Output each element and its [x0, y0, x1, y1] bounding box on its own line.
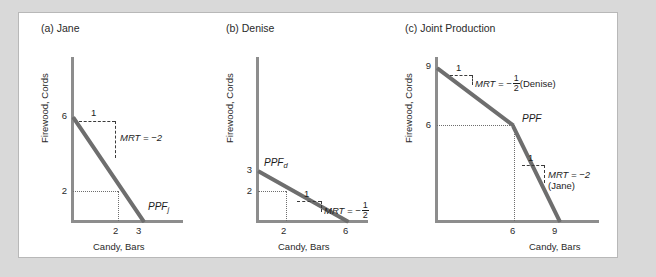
panel-b-slope-rise	[321, 201, 322, 212]
panel-c-mrt-denise-prefix: MRT = −	[475, 78, 512, 89]
panel-b-ppf-label: PPFd	[264, 157, 288, 170]
panel-c-dotted-horizontal	[437, 125, 514, 126]
panel-a-ppf-label-subscript: j	[167, 205, 169, 214]
panel-a-ytick-6: 6	[53, 110, 67, 121]
panel-c-ytick-9: 9	[417, 60, 431, 71]
panel-a-y-axis	[71, 57, 74, 222]
panel-b-slope-run	[297, 201, 321, 202]
panel-c-jane-slope-rise	[544, 165, 545, 183]
panel-a-dotted-horizontal	[73, 191, 118, 192]
panel-c-x-axis	[435, 220, 599, 223]
panel-b-ppf-label-subscript: d	[283, 161, 287, 170]
panel-b-dotted-vertical	[286, 191, 287, 221]
panel-b-ytick-3: 3	[238, 164, 252, 175]
panel-a-run-label: 1	[91, 107, 96, 118]
panel-b-x-axis	[256, 220, 368, 223]
panel-b-xtick-6: 6	[343, 225, 348, 236]
panel-c-dotted-vertical	[514, 125, 515, 221]
figure-container: (a) Jane Firewood, Cords 6 2 2 3 1 MRT =…	[18, 12, 618, 258]
panel-a-xtick-3: 3	[136, 225, 141, 236]
panel-b-run-label: 1	[304, 188, 309, 199]
panel-c-denise-run-label: 1	[456, 62, 461, 73]
panel-c-mrt-denise-numerator: 1	[513, 74, 520, 83]
panel-c-ytick-6: 6	[417, 119, 431, 130]
panel-c-ppf-label: PPF	[522, 113, 541, 124]
panel-c-mrt-denise-fraction: 12	[513, 74, 520, 93]
panel-c-jane-slope-run	[522, 165, 544, 166]
panel-b-mrt-prefix: MRT = −	[324, 205, 361, 216]
panel-b-mrt-denominator: 2	[362, 210, 369, 220]
panel-c-y-axis	[435, 57, 438, 222]
panel-b-mrt-numerator: 1	[362, 201, 369, 210]
panel-joint-production: (c) Joint Production Firewood, Cords 9 6…	[389, 13, 619, 259]
panel-b-xtick-2: 2	[281, 225, 286, 236]
panel-b-y-axis-label: Firewood, Cords	[224, 73, 235, 143]
panel-c-denise-slope-run	[450, 75, 472, 76]
panel-jane: (a) Jane Firewood, Cords 6 2 2 3 1 MRT =…	[19, 13, 204, 259]
panel-a-slope-run	[79, 121, 115, 122]
panel-c-x-axis-label: Candy, Bars	[529, 241, 581, 252]
panel-a-x-axis	[71, 220, 183, 223]
panel-c-denise-slope-rise	[472, 75, 473, 85]
panel-a-ytick-2: 2	[53, 185, 67, 196]
panel-c-mrt-denise-denominator: 2	[513, 83, 520, 93]
panel-c-mrt-jane-text: MRT = −2	[548, 169, 590, 180]
panel-a-dotted-vertical	[118, 191, 119, 221]
panel-b-mrt-fraction: 12	[362, 201, 369, 220]
panel-denise: (b) Denise Firewood, Cords 3 2 2 6 1 MRT…	[204, 13, 389, 259]
panel-a-mrt-label: MRT = −2	[120, 132, 162, 143]
panel-c-mrt-denise-label: MRT = −12(Denise)	[475, 74, 556, 93]
panel-a-ppf-label-text: PPF	[148, 201, 167, 212]
panel-b-x-axis-label: Candy, Bars	[278, 241, 330, 252]
panel-c-mrt-denise-person: (Denise)	[520, 78, 556, 89]
panel-c-xtick-9: 9	[552, 225, 557, 236]
panel-c-mrt-jane-person: (Jane)	[548, 180, 575, 191]
panel-c-xtick-6: 6	[510, 225, 515, 236]
panel-c-y-axis-label: Firewood, Cords	[403, 73, 414, 143]
panel-a-x-axis-label: Candy, Bars	[93, 241, 145, 252]
panel-a-ppf-label: PPFj	[148, 201, 169, 214]
panel-a-y-axis-label: Firewood, Cords	[39, 73, 50, 143]
panel-b-y-axis	[256, 57, 259, 222]
panel-b-ytick-2: 2	[238, 185, 252, 196]
panel-b-dotted-horizontal	[258, 191, 286, 192]
panel-b-title: (b) Denise	[226, 22, 274, 34]
panel-b-mrt-label: MRT = −12	[324, 201, 369, 220]
panel-a-slope-rise	[115, 121, 116, 158]
panel-c-mrt-jane-label: MRT = −2(Jane)	[548, 170, 590, 192]
panel-c-title: (c) Joint Production	[405, 22, 495, 34]
panel-b-ppf-label-text: PPF	[264, 157, 283, 168]
panel-c-jane-run-label: 1	[528, 152, 533, 163]
panel-a-xtick-2: 2	[113, 225, 118, 236]
panel-a-title: (a) Jane	[41, 22, 80, 34]
